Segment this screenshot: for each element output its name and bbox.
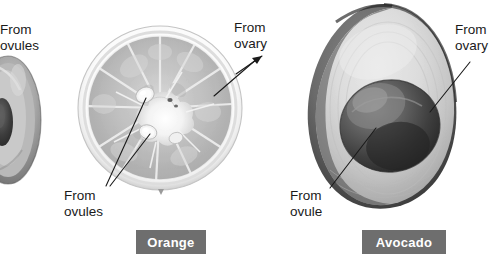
specimen-partial-fruit-left — [0, 56, 41, 184]
leader-arrowheads — [252, 56, 262, 64]
fruit-anatomy-figure: From ovules From ovary From ovules From … — [0, 0, 502, 273]
caption-avocado: Avocado — [362, 230, 446, 254]
caption-orange: Orange — [136, 230, 206, 254]
specimen-orange — [78, 26, 242, 195]
callout-avocado-from-ovule: From ovule — [290, 188, 322, 220]
callout-avocado-from-ovary: From ovary — [455, 22, 488, 54]
callout-orange-from-ovary: From ovary — [234, 20, 267, 52]
callout-orange-from-ovules: From ovules — [64, 188, 103, 220]
callout-left-from-ovules: From ovules — [0, 22, 39, 54]
